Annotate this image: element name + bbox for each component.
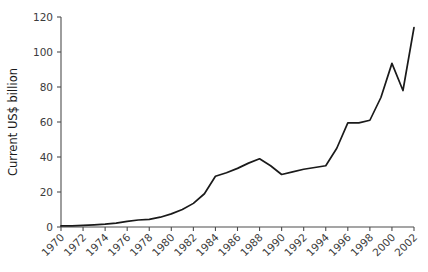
x-tick-label: 1976 bbox=[105, 231, 133, 259]
x-tick-label: 1996 bbox=[326, 231, 354, 259]
y-tick-label: 80 bbox=[40, 81, 53, 93]
x-tick-label: 1986 bbox=[216, 231, 244, 259]
chart-figure: 020406080100120 197019721974197619781980… bbox=[0, 0, 428, 272]
x-tick-label: 1988 bbox=[238, 231, 265, 258]
x-tick-label: 1998 bbox=[348, 231, 375, 258]
x-tick-label: 1978 bbox=[127, 231, 154, 258]
x-tick-label: 1984 bbox=[193, 231, 221, 259]
y-tick-label: 60 bbox=[40, 116, 53, 128]
x-tick-label: 1970 bbox=[39, 231, 66, 258]
x-tick-label: 1980 bbox=[149, 231, 176, 258]
x-tick-label: 1994 bbox=[304, 231, 332, 259]
x-tick-label: 1972 bbox=[61, 231, 88, 258]
line-chart: 020406080100120 197019721974197619781980… bbox=[0, 0, 428, 272]
x-tick-label: 1992 bbox=[282, 231, 309, 258]
y-tick-label: 20 bbox=[40, 186, 53, 198]
x-tick-label: 1982 bbox=[171, 231, 198, 258]
x-axis-ticks: 1970197219741976197819801982198419861988… bbox=[39, 227, 419, 258]
x-tick-label: 2000 bbox=[370, 231, 397, 258]
y-axis-ticks: 020406080100120 bbox=[33, 11, 61, 233]
data-series-line bbox=[61, 28, 414, 226]
y-tick-label: 100 bbox=[33, 46, 53, 58]
y-tick-label: 40 bbox=[40, 151, 53, 163]
y-tick-label: 120 bbox=[33, 11, 53, 23]
y-axis-title: Current US$ billion bbox=[6, 68, 20, 176]
y-tick-label: 0 bbox=[46, 221, 53, 233]
x-tick-label: 1990 bbox=[260, 231, 287, 258]
x-tick-label: 2002 bbox=[392, 231, 419, 258]
x-tick-label: 1974 bbox=[83, 231, 111, 259]
